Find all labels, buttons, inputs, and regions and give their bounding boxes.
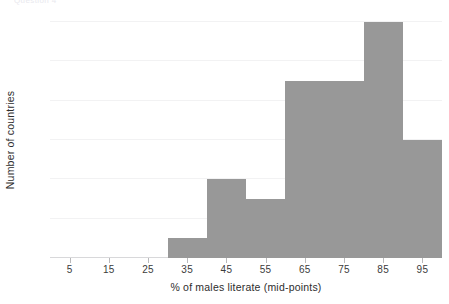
x-tick-label: 5	[50, 264, 90, 275]
x-tick-label: 15	[89, 264, 129, 275]
x-tick-mark	[109, 258, 110, 263]
plot-area	[50, 22, 442, 258]
x-tick-mark	[344, 258, 345, 263]
x-tick-mark	[305, 258, 306, 263]
clipped-header-text: Question 4	[14, 0, 184, 6]
histogram-bar	[324, 81, 363, 258]
x-tick-mark	[148, 258, 149, 263]
x-tick-mark	[422, 258, 423, 263]
x-tick-label: 55	[246, 264, 286, 275]
histogram-bar	[403, 140, 442, 258]
histogram-bar	[246, 199, 285, 258]
x-tick-mark	[226, 258, 227, 263]
x-tick-mark	[266, 258, 267, 263]
histogram-bar	[168, 238, 207, 258]
x-tick-mark	[187, 258, 188, 263]
x-tick-label: 45	[206, 264, 246, 275]
histogram-bar	[364, 22, 403, 258]
y-axis-label: Number of countries	[4, 22, 18, 258]
x-axis-label: % of males literate (mid-points)	[50, 281, 442, 293]
x-tick-label: 95	[402, 264, 442, 275]
x-tick-label: 35	[167, 264, 207, 275]
x-tick-label: 65	[285, 264, 325, 275]
x-tick-mark	[383, 258, 384, 263]
histogram-bar	[207, 179, 246, 258]
histogram-bar	[285, 81, 324, 258]
x-tick-label: 75	[324, 264, 364, 275]
x-tick-mark	[70, 258, 71, 263]
x-axis-ticks: 5152535455565758595	[50, 258, 442, 280]
histogram-figure: Question 4 024681012 5152535455565758595…	[0, 0, 449, 304]
x-tick-label: 25	[128, 264, 168, 275]
x-tick-label: 85	[363, 264, 403, 275]
